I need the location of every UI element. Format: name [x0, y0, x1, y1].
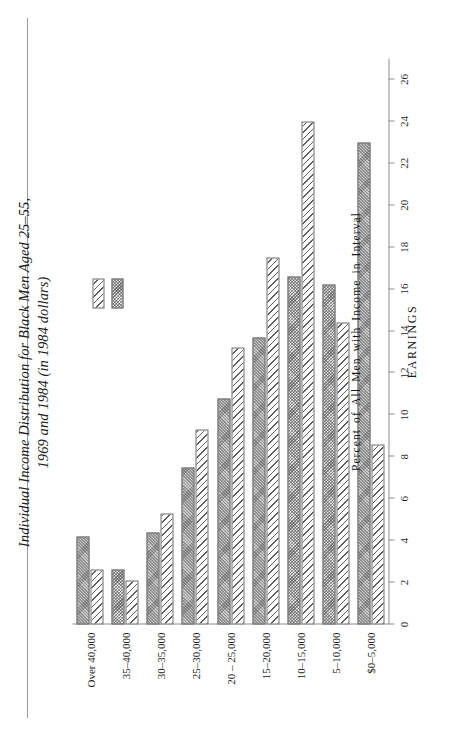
bar-1984 [181, 467, 194, 624]
category-label: 5–10,000 [329, 632, 341, 673]
rotated-figure-wrapper: Individual Income Distribution for Black… [0, 0, 473, 744]
bar-1969 [160, 513, 173, 624]
bar-1984 [217, 398, 230, 624]
bar-1969 [231, 347, 244, 624]
category-label: 10–15,000 [294, 632, 306, 679]
legend-item-1969: 1969 [92, 286, 104, 308]
bar-1984 [76, 536, 89, 624]
value-axis-tick [388, 162, 394, 163]
value-axis-tick [388, 246, 394, 247]
chart-title-line-1: Individual Income Distribution for Black… [15, 197, 31, 546]
value-axis-tick [388, 78, 394, 79]
bar-1969 [336, 322, 349, 624]
chart-title: Individual Income Distribution for Black… [14, 0, 52, 744]
value-axis-title: Percent of All Men with Income in Interv… [349, 58, 361, 624]
bar-1969 [371, 444, 384, 624]
bar-chart-figure: Individual Income Distribution for Black… [0, 0, 473, 744]
bar-1969 [266, 257, 279, 624]
value-axis-tick [388, 539, 394, 540]
value-axis-tick [388, 330, 394, 331]
solid-gray-swatch-icon [111, 278, 123, 308]
category-label: 30–35,000 [154, 632, 166, 679]
bar-1984 [111, 570, 124, 625]
bar-1969 [90, 570, 103, 625]
category-label: Over 40,000 [84, 632, 96, 687]
bar-1969 [195, 429, 208, 624]
category-label: $0–5,000 [364, 632, 376, 673]
category-label: 15–20,000 [259, 632, 271, 679]
value-axis-tick [388, 581, 394, 582]
category-label: 25–30,000 [189, 632, 201, 679]
chart-legend: 1969 1984 [92, 286, 130, 308]
chart-title-line-2: 1969 and 1984 (in 1984 dollars) [33, 0, 52, 744]
value-axis-tick [388, 371, 394, 372]
value-axis-tick [388, 623, 394, 624]
category-axis-title: EARNINGS [404, 58, 419, 624]
diagonal-hatch-swatch-icon [92, 278, 104, 308]
bar-1984 [146, 532, 159, 624]
value-axis-tick [388, 288, 394, 289]
bar-1984 [322, 284, 335, 624]
legend-item-1984: 1984 [111, 286, 123, 308]
value-axis-tick [388, 455, 394, 456]
bar-1984 [287, 276, 300, 624]
bar-1984 [252, 337, 265, 624]
bar-1969 [301, 121, 314, 624]
value-axis-tick [388, 120, 394, 121]
category-label: 35–40,000 [119, 632, 131, 679]
value-axis-tick [388, 497, 394, 498]
bar-1969 [125, 580, 138, 624]
category-label: 20 – 25,000 [224, 632, 236, 684]
value-axis-tick [388, 413, 394, 414]
value-axis-tick [388, 204, 394, 205]
plot-area: 02468101214161820222426 $0–5,0005–10,000… [72, 58, 388, 624]
